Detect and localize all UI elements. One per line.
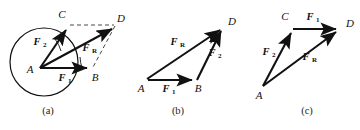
- panel-c-vector-F2: [263, 33, 291, 86]
- panel-a-caption: (a): [42, 105, 54, 117]
- panel-b-force-label-FR-symbol: F: [169, 36, 177, 47]
- panel-c-force-label-F2-sub: 2: [272, 51, 276, 59]
- panel-a-point-label-A: A: [26, 63, 34, 75]
- panel-c-force-label-F1: F 1: [305, 11, 320, 24]
- panel-b-force-label-F2-symbol: F: [207, 47, 215, 58]
- panel-b-point-label-B: B: [195, 82, 202, 94]
- panel-c-point-label-D: D: [345, 17, 354, 29]
- panel-b-point-label-A: A: [137, 82, 145, 94]
- panel-a-force-label-FR: F R: [81, 42, 98, 55]
- panel-a-force-label-F1-sub: 1: [68, 77, 72, 85]
- panel-c-point-label-C: C: [281, 10, 289, 22]
- figure-canvas: A B C D F 1 F 2 F R (a): [0, 0, 360, 130]
- panel-b-force-label-F1: F 1: [161, 83, 176, 96]
- panel-c-force-label-FR-symbol: F: [301, 51, 309, 62]
- panel-b-point-label-D: D: [227, 15, 236, 27]
- panel-c-vector-FR: [263, 32, 336, 86]
- vector-addition-figure: A B C D F 1 F 2 F R (a): [0, 0, 360, 130]
- panel-c-force-label-FR: F R: [301, 51, 318, 64]
- panel-a-force-label-F2: F 2: [32, 36, 47, 49]
- panel-b-force-label-F1-sub: 1: [172, 88, 176, 96]
- panel-b-force-label-FR: F R: [169, 36, 186, 49]
- panel-c-force-label-FR-sub: R: [312, 56, 318, 64]
- panel-b-force-label-F2: F 2: [207, 47, 222, 60]
- panel-a-force-label-F1: F 1: [57, 72, 72, 85]
- panel-a-point-label-B: B: [92, 71, 99, 83]
- panel-a-point-label-D: D: [116, 12, 125, 24]
- panel-c: A C D F 2 F 1 F R (c): [255, 10, 354, 117]
- panel-a-angle-arc-lower: [80, 57, 82, 68]
- panel-b-force-label-F1-symbol: F: [161, 83, 169, 94]
- panel-a-force-label-FR-sub: R: [92, 47, 98, 55]
- panel-c-force-label-F1-symbol: F: [305, 11, 313, 22]
- panel-b-force-label-FR-sub: R: [180, 41, 186, 49]
- panel-b-force-label-F2-sub: 2: [218, 52, 222, 60]
- panel-a: A B C D F 1 F 2 F R (a): [10, 8, 125, 117]
- panel-a-force-label-F1-symbol: F: [57, 72, 65, 83]
- panel-a-vector-FR: [40, 29, 112, 68]
- panel-c-force-label-F2: F 2: [261, 46, 276, 59]
- panel-a-force-label-F2-sub: 2: [43, 41, 47, 49]
- panel-a-force-label-F2-symbol: F: [32, 36, 40, 47]
- panel-c-point-label-A: A: [255, 89, 263, 101]
- panel-c-force-label-F2-symbol: F: [261, 46, 269, 57]
- panel-a-vector-F2: [40, 30, 66, 68]
- panel-c-caption: (c): [301, 105, 313, 117]
- panel-a-point-label-C: C: [58, 8, 66, 20]
- panel-b-caption: (b): [172, 105, 185, 117]
- panel-a-force-label-FR-symbol: F: [81, 42, 89, 53]
- panel-b: A B D F 1 F 2 F R (b): [137, 15, 236, 117]
- panel-c-force-label-F1-sub: 1: [316, 16, 320, 24]
